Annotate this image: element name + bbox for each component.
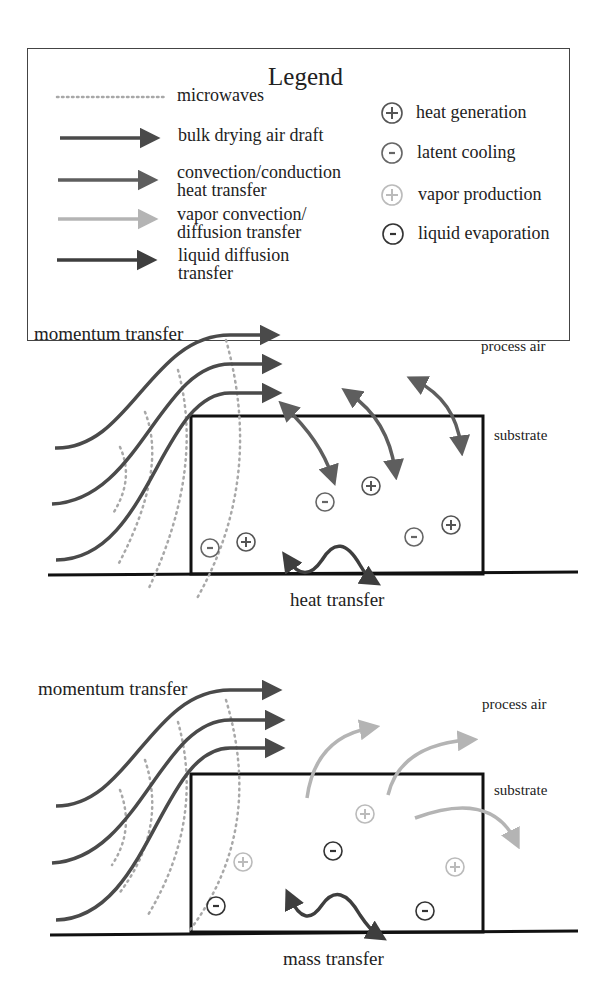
heat-generation-icon (442, 516, 460, 534)
heat-caption: heat transfer (290, 589, 384, 611)
mass-caption: mass transfer (283, 948, 384, 970)
vapor-production-icon (446, 858, 464, 876)
legend-label-vapor-transfer: vapor convection/ diffusion transfer (177, 205, 306, 241)
legend-label-heat-transfer: convection/conduction heat transfer (177, 163, 341, 199)
vapor-production-icon (356, 805, 374, 823)
liquid-evaporation-icon (416, 902, 434, 920)
latent-cooling-icon (405, 528, 423, 546)
heat-transfer-arrows (286, 381, 461, 476)
legend-label-heat-generation: heat generation (416, 103, 526, 121)
latent-cooling-icon (201, 539, 219, 557)
heat-generation-icon (362, 477, 380, 495)
latent-cooling-icon (316, 493, 334, 511)
legend-latent-cooling-icon (382, 143, 402, 163)
liquid-evaporation-icon (207, 897, 225, 915)
mass-substrate-label: substrate (494, 782, 547, 799)
legend-heat-generation-icon (382, 103, 402, 123)
mass-momentum-label: momentum transfer (38, 678, 187, 700)
legend-label-liquid-transfer: liquid diffusion transfer (178, 246, 289, 282)
substrate-rect (191, 774, 483, 932)
heat-generation-icon (237, 533, 255, 551)
legend-vapor-production-icon (382, 185, 402, 205)
legend-label-latent-cooling: latent cooling (417, 143, 515, 161)
heat-momentum-label: momentum transfer (34, 323, 183, 345)
liquid-evaporation-icon (324, 842, 342, 860)
vapor-production-icon (234, 853, 252, 871)
legend-label-vapor-production: vapor production (418, 185, 541, 203)
legend-liquid-evaporation-icon (383, 224, 403, 244)
microwave-arcs (112, 340, 240, 600)
mass-process-air-label: process air (482, 696, 547, 713)
heat-substrate-label: substrate (494, 427, 547, 444)
liquid-diffusion-arrow (290, 895, 378, 935)
mass-panel (50, 690, 578, 935)
legend-label-liquid-evaporation: liquid evaporation (418, 224, 549, 242)
heat-panel (48, 335, 578, 600)
legend-label-bulk-air: bulk drying air draft (178, 126, 323, 144)
heat-process-air-label: process air (481, 338, 546, 355)
legend-label-microwaves: microwaves (177, 86, 264, 104)
